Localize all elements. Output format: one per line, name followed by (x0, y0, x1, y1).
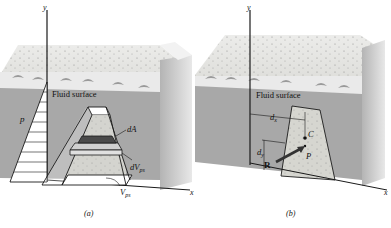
x-axis-label-b: x (383, 188, 388, 197)
pressure-label: p (19, 114, 25, 124)
fluid-surface-label-a: Fluid surface (52, 89, 97, 99)
hydrostatic-force-diagram: y x p Fluid surface (0, 0, 391, 228)
Vps-label: Vps (120, 187, 131, 198)
panel-b: y x Fluid surface dx dy C P R (b) (195, 3, 388, 218)
pressure-center-label: P (305, 151, 311, 161)
fluid-surface-label-b: Fluid surface (256, 90, 301, 100)
fluid-side-b (362, 40, 385, 186)
panel-a: y x p Fluid surface (0, 3, 194, 218)
centroid-label: C (308, 129, 314, 139)
centroid-point (303, 136, 307, 140)
dA-label: dA (127, 124, 137, 134)
y-axis-label-a: y (42, 3, 47, 12)
x-axis-label-a: x (189, 188, 194, 197)
fluid-front-b (195, 86, 362, 180)
fluid-side-a (160, 55, 192, 190)
y-axis-label-b: y (246, 3, 251, 12)
caption-b: (b) (286, 209, 296, 218)
caption-a: (a) (84, 209, 94, 218)
resultant-label: R (264, 160, 271, 170)
dA-element (78, 136, 116, 143)
